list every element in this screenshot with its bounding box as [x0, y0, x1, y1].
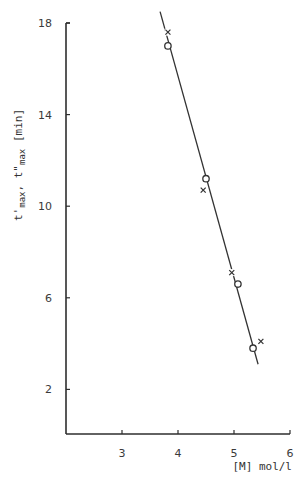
x-tick-label: 6 [287, 447, 294, 460]
cross-marker [228, 269, 235, 276]
y-tick-label: 6 [45, 292, 52, 305]
circle-marker [165, 43, 171, 49]
ticks: 261014183456 [38, 17, 294, 460]
cross-marker [257, 338, 264, 345]
y-axis-label: t'max, t"max [min] [12, 109, 27, 221]
y-tick-label: 10 [38, 200, 52, 213]
x-tick-label: 5 [231, 447, 238, 460]
x-axis-label: [M] mol/l [232, 460, 292, 473]
circle-marker [250, 345, 256, 351]
cross-marker [164, 29, 171, 36]
x-tick-label: 4 [175, 447, 182, 460]
fit-line [160, 12, 258, 365]
regression-line [160, 12, 258, 365]
circle-marker [235, 281, 241, 287]
x-tick-label: 3 [119, 447, 126, 460]
cross-marker [200, 187, 207, 194]
y-tick-label: 2 [45, 383, 52, 396]
y-tick-label: 18 [38, 17, 52, 30]
data-markers [164, 29, 264, 352]
y-tick-label: 14 [38, 109, 52, 122]
chart: 261014183456 [M] mol/l t'max, t"max [min… [0, 0, 303, 498]
axes [66, 23, 290, 434]
circle-marker [203, 176, 209, 182]
